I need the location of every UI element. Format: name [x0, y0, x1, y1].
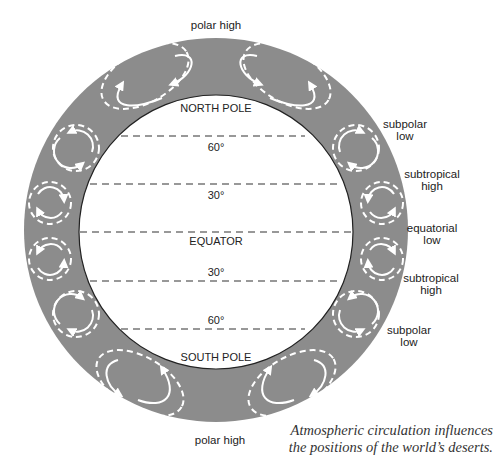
subtropical-high-north-label-2: high — [421, 180, 443, 192]
subpolar-low-south-label-1: subpolar — [387, 324, 431, 336]
subtropical-high-south-label-1: subtropical — [403, 272, 459, 284]
subtropical-high-north-label-1: subtropical — [404, 168, 460, 180]
equatorial-low-label-1: equatorial — [407, 222, 458, 234]
subpolar-low-north-label-2: low — [396, 130, 414, 142]
polar-high-top-label: polar high — [191, 19, 242, 31]
caption-line-1: Atmospheric circulation influences — [233, 422, 493, 439]
lat-30n-label: 30° — [208, 189, 225, 201]
equatorial-low-label-2: low — [423, 234, 441, 246]
caption-line-2: the positions of the world’s deserts. — [233, 439, 493, 456]
subtropical-high-south-label-2: high — [420, 284, 442, 296]
circulation-diagram: NORTH POLE 60° 30° EQUATOR 30° 60° SOUTH… — [0, 0, 499, 462]
north-pole-label: NORTH POLE — [180, 102, 251, 114]
lat-60s-label: 60° — [208, 314, 225, 326]
lat-60n-label: 60° — [208, 141, 225, 153]
subpolar-low-north-label-1: subpolar — [383, 118, 427, 130]
south-pole-label: SOUTH POLE — [181, 351, 252, 363]
lat-30s-label: 30° — [208, 266, 225, 278]
subpolar-low-south-label-2: low — [400, 336, 418, 348]
equator-label: EQUATOR — [189, 235, 242, 247]
figure-caption: Atmospheric circulation influences the p… — [233, 422, 493, 456]
